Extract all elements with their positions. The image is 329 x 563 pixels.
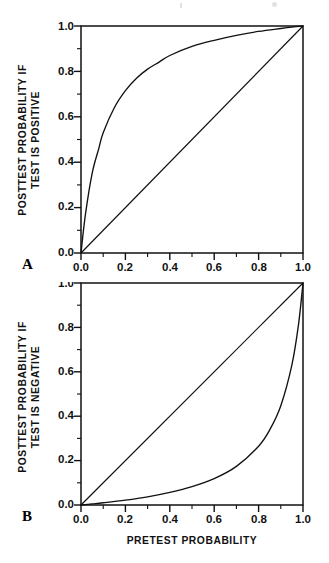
panel-b-xtick-label-0.0: 0.0 bbox=[73, 513, 89, 525]
panel-a-ytick-label-0.0: 0.0 bbox=[58, 246, 74, 258]
panel-a-xtick-label-0.4: 0.4 bbox=[162, 261, 179, 273]
panel-a-xtick-label-0.0: 0.0 bbox=[73, 261, 89, 273]
panel-b-xtick-label-0.2: 0.2 bbox=[117, 513, 133, 525]
panel-a-y-axis-title: POSTTEST PROBABILITY IF TEST IS POSITIVE bbox=[17, 64, 41, 215]
panel-b-ytick-label-0.8: 0.8 bbox=[58, 321, 75, 333]
panel-b-y-axis-title: POSTTEST PROBABILITY IF TEST IS NEGATIVE bbox=[17, 321, 41, 472]
panel-b-ytick-label-0.4: 0.4 bbox=[58, 409, 75, 421]
panel-b-y-axis-title-line1: POSTTEST PROBABILITY IF bbox=[17, 321, 28, 472]
panel-b-ytick-label-0.2: 0.2 bbox=[58, 453, 74, 465]
panel-b-ytick-label-1.0: 1.0 bbox=[58, 282, 74, 289]
panel-b-xtick-label-0.6: 0.6 bbox=[206, 513, 222, 525]
panel-a-ytick-label-1.0: 1.0 bbox=[58, 20, 74, 32]
panel-a-xtick-label-0.2: 0.2 bbox=[117, 261, 133, 273]
panel-a-identity-line bbox=[81, 26, 303, 253]
panel-a-y-axis-title-line1: POSTTEST PROBABILITY IF bbox=[17, 64, 28, 215]
panel-a-plot: POSTTEST PROBABILITY IF TEST IS POSITIVE… bbox=[0, 0, 329, 282]
panel-b-ytick-label-0.6: 0.6 bbox=[58, 365, 74, 377]
panel-a-ytick-label-0.6: 0.6 bbox=[58, 110, 74, 122]
panel-b-identity-line bbox=[81, 283, 303, 505]
panel-a-xtick-label-1.0: 1.0 bbox=[295, 261, 311, 273]
panel-a-xtick-label-0.8: 0.8 bbox=[251, 261, 268, 273]
panel-a-y-axis-title-line2: TEST IS POSITIVE bbox=[30, 91, 41, 189]
panel-a-xtick-label-0.6: 0.6 bbox=[206, 261, 222, 273]
panel-b-ytick-label-0.0: 0.0 bbox=[58, 498, 74, 510]
panel-a-ytick-label-0.8: 0.8 bbox=[58, 65, 75, 77]
panel-b-plot: POSTTEST PROBABILITY IF TEST IS NEGATIVE… bbox=[0, 282, 329, 563]
panel-b-y-axis-title-line2: TEST IS NEGATIVE bbox=[30, 346, 41, 448]
panel-a: POSTTEST PROBABILITY IF TEST IS POSITIVE… bbox=[0, 0, 329, 282]
panel-b: POSTTEST PROBABILITY IF TEST IS NEGATIVE… bbox=[0, 282, 329, 563]
panel-b-xtick-label-0.4: 0.4 bbox=[162, 513, 179, 525]
panel-b-label: B bbox=[22, 508, 32, 524]
panel-a-label: A bbox=[22, 256, 33, 272]
panel-a-ytick-label-0.2: 0.2 bbox=[58, 200, 74, 212]
figure-container: POSTTEST PROBABILITY IF TEST IS POSITIVE… bbox=[0, 0, 329, 563]
panel-b-xtick-label-1.0: 1.0 bbox=[295, 513, 311, 525]
panel-a-ytick-label-0.4: 0.4 bbox=[58, 155, 75, 167]
panel-b-xtick-label-0.8: 0.8 bbox=[251, 513, 268, 525]
x-axis-title: PRETEST PROBABILITY bbox=[127, 535, 258, 546]
